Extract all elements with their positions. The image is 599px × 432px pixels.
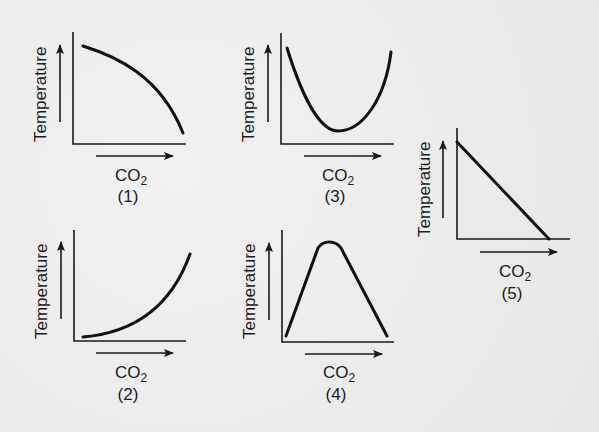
panel-1	[60, 32, 186, 156]
panel-1-curve	[83, 46, 183, 133]
panel-4-y-label: Temperature	[241, 244, 258, 339]
panel-2-curve	[83, 254, 190, 337]
panel-4-number: (4)	[316, 386, 356, 403]
panel-4-curve	[286, 242, 387, 336]
panel-2	[61, 230, 190, 353]
panel-5-number: (5)	[492, 285, 532, 302]
panel-4-x-label: CO2	[309, 364, 369, 384]
panel-1-number: (1)	[108, 188, 148, 205]
panel-3-curve	[287, 48, 391, 131]
panel-2-y-label: Temperature	[33, 244, 50, 339]
figure: Temperature Temperature Temperature Temp…	[0, 0, 599, 432]
panel-2-number: (2)	[108, 386, 148, 403]
panel-5-axes	[457, 128, 570, 239]
panel-3	[268, 33, 394, 156]
panel-2-x-label: CO2	[101, 364, 161, 384]
panel-1-y-label: Temperature	[32, 47, 49, 142]
panel-5	[443, 128, 570, 252]
panel-1-x-label: CO2	[101, 167, 161, 187]
panel-3-axes	[281, 33, 394, 144]
panel-3-number: (3)	[315, 188, 355, 205]
panel-5-y-label: Temperature	[416, 142, 433, 237]
panel-5-curve	[457, 142, 549, 239]
panel-4	[269, 230, 394, 354]
panel-3-y-label: Temperature	[240, 47, 257, 142]
panel-3-x-label: CO2	[308, 167, 368, 187]
panel-5-x-label: CO2	[485, 263, 545, 283]
graphs-canvas	[0, 0, 599, 432]
panel-4-axes	[282, 230, 394, 342]
